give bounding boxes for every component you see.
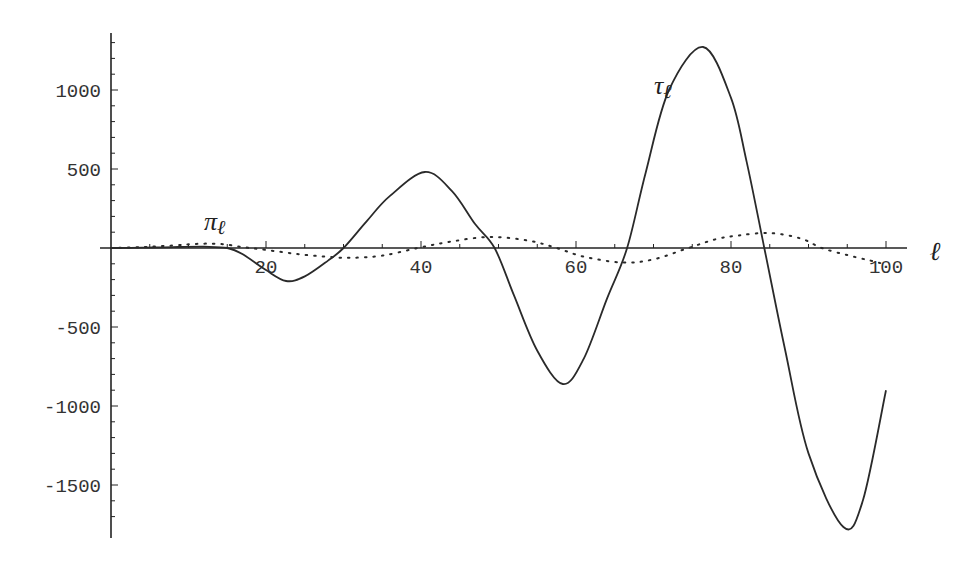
label-subscript: ℓ [217, 216, 226, 238]
data-curves [111, 47, 886, 530]
x-tick-label: 100 [869, 257, 903, 279]
axes [100, 33, 907, 538]
x-axis-label: ℓ [930, 237, 941, 266]
x-tick-label: 60 [565, 257, 588, 279]
axis-ticks [111, 43, 886, 517]
y-tick-label: -500 [55, 318, 101, 340]
axis-tick-labels: 1000500-500-1000-150020406080100ℓ [44, 81, 941, 498]
x-tick-label: 80 [720, 257, 743, 279]
tau-label: τℓ [654, 71, 672, 102]
label-subscript: ℓ [663, 80, 672, 102]
y-tick-label: 1000 [55, 81, 101, 103]
curve-labels: τℓπℓ [204, 71, 672, 238]
y-tick-label: -1500 [44, 476, 101, 498]
y-tick-label: -1000 [44, 397, 101, 419]
x-tick-label: 40 [410, 257, 433, 279]
y-tick-label: 500 [67, 160, 101, 182]
tau-curve [111, 47, 886, 530]
pi-label: πℓ [204, 207, 226, 238]
line-chart: 1000500-500-1000-150020406080100ℓ τℓπℓ [0, 0, 973, 569]
